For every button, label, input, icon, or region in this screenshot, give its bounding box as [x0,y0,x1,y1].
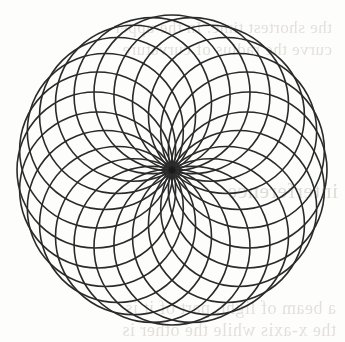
center-marker [169,167,176,174]
scanned-page: the shortest time. In the upper curve th… [0,0,345,342]
rosette-circle [168,72,324,228]
center-marker-dot [170,168,174,172]
rosette-circle [171,92,327,248]
rosette-circle [74,18,230,174]
rosette-circle [94,169,250,325]
rosette-circle [114,166,270,322]
rosette-circle [17,92,173,248]
rosette-circle [94,15,250,171]
spirograph-rosette-figure [0,0,345,342]
rosette-circle [74,166,230,322]
rosette-circle [114,18,270,174]
rosette-circle [20,72,176,228]
rosette-circle [20,112,176,268]
rosette-circle [168,112,324,268]
